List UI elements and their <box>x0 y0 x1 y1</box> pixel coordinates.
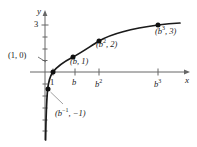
point-one-zero-marker <box>51 70 56 75</box>
x-tick-b3-exponent: 3 <box>158 78 161 84</box>
point-label-b2-close: , 2) <box>106 39 117 49</box>
point-label-b3-3: (b3, 3) <box>155 25 176 35</box>
point-label-b-1: (b, 1) <box>70 57 88 66</box>
y-axis-label: y <box>37 7 41 16</box>
point-label-b2-2: (b2, 2) <box>96 38 117 48</box>
point-label-b3-close: , 3) <box>165 26 176 36</box>
point-label-b-inv-close: , −1) <box>68 108 85 118</box>
point-b-inv-marker <box>46 87 51 92</box>
y-axis-arrowhead <box>43 10 48 16</box>
point-label-one-zero: (1, 0) <box>8 51 26 60</box>
x-tick-label-b3: b3 <box>154 78 161 88</box>
plot-canvas <box>0 0 197 147</box>
y-tick-label-3: 3 <box>34 20 38 29</box>
x-axis-label: x <box>185 76 189 85</box>
x-tick-label-b2: b2 <box>95 78 102 88</box>
x-tick-b2-exponent: 2 <box>99 78 102 84</box>
x-tick-label-1: 1 <box>50 78 54 87</box>
logarithm-graph-figure: y x 3 1 b b2 b3 (1, 0) (b, 1) (b2, 2) (b… <box>0 0 197 147</box>
leader-line-b-inv <box>51 92 64 104</box>
x-tick-b-base: b <box>72 77 76 87</box>
x-tick-label-b: b <box>72 78 76 87</box>
x-axis-arrowhead <box>184 70 190 75</box>
point-label-b-inv: (b−1, −1) <box>55 107 86 117</box>
